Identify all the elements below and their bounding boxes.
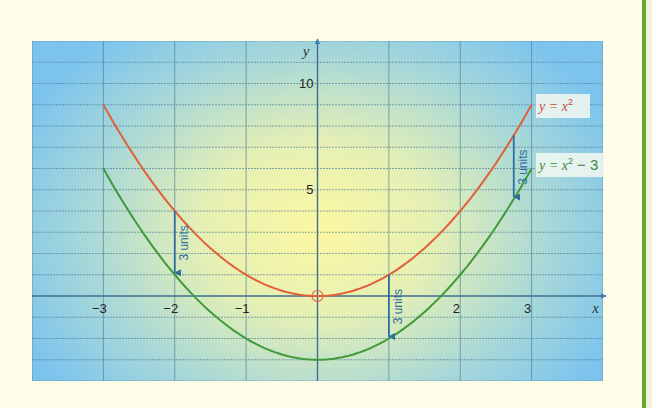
y-tick-label: 10: [299, 76, 313, 91]
x-tick-label: 3: [524, 301, 531, 316]
shift-label: 3 units: [177, 225, 191, 260]
x-tick-label: −3: [92, 301, 107, 316]
page-edge-margin: [646, 0, 652, 408]
legend-label-x-squared-minus-3: y = x2 − 3: [537, 156, 598, 173]
shift-label: 3 units: [391, 289, 405, 324]
shift-label: 3 units: [516, 149, 530, 184]
legend-label-x-squared: y = x2: [537, 97, 573, 114]
parabola-chart: yx 3 units3 units3 units −3−2−123510 y =…: [0, 0, 652, 408]
x-tick-label: 2: [453, 301, 460, 316]
x-tick-label: −2: [163, 301, 178, 316]
x-tick-label: −1: [235, 301, 250, 316]
x-axis-label: x: [591, 300, 599, 316]
y-axis-label: y: [301, 43, 310, 59]
figure: yx 3 units3 units3 units −3−2−123510 y =…: [0, 0, 652, 408]
y-tick-label: 5: [306, 182, 313, 197]
